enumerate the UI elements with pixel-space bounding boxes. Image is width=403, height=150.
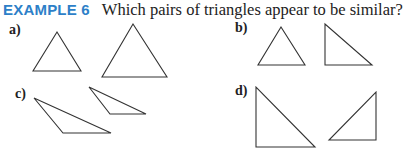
- triangle-d1: [256, 87, 315, 147]
- part-d-triangles: [256, 87, 376, 147]
- triangle-b2: [325, 24, 372, 65]
- triangle-a2: [102, 24, 167, 77]
- triangle-c1: [34, 98, 111, 133]
- triangle-b1: [258, 27, 305, 65]
- triangle-d2: [329, 92, 376, 140]
- part-b-triangles: [258, 24, 372, 65]
- part-c-triangles: [34, 87, 146, 133]
- part-a-triangles: [33, 24, 167, 77]
- triangle-a1: [33, 32, 81, 71]
- triangle-c2: [89, 87, 146, 114]
